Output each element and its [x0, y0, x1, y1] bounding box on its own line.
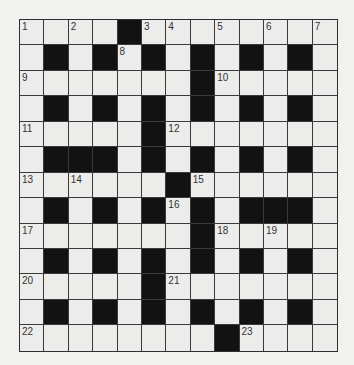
answer-cell[interactable] — [313, 300, 337, 325]
answer-cell[interactable] — [20, 96, 44, 121]
answer-cell[interactable] — [20, 300, 44, 325]
answer-cell[interactable] — [69, 198, 93, 223]
answer-cell[interactable] — [166, 71, 190, 96]
answer-cell[interactable] — [240, 71, 264, 96]
answer-cell[interactable] — [44, 173, 68, 198]
answer-cell[interactable] — [288, 224, 312, 249]
answer-cell[interactable] — [240, 224, 264, 249]
answer-cell[interactable] — [215, 147, 239, 172]
answer-cell[interactable] — [20, 198, 44, 223]
answer-cell[interactable]: 18 — [215, 224, 239, 249]
answer-cell[interactable] — [69, 274, 93, 299]
answer-cell[interactable]: 16 — [166, 198, 190, 223]
answer-cell[interactable] — [166, 300, 190, 325]
answer-cell[interactable] — [240, 20, 264, 45]
answer-cell[interactable]: 17 — [20, 224, 44, 249]
answer-cell[interactable] — [69, 249, 93, 274]
answer-cell[interactable] — [191, 122, 215, 147]
answer-cell[interactable]: 21 — [166, 274, 190, 299]
answer-cell[interactable] — [44, 20, 68, 45]
answer-cell[interactable] — [166, 249, 190, 274]
answer-cell[interactable] — [264, 173, 288, 198]
answer-cell[interactable] — [69, 325, 93, 350]
answer-cell[interactable] — [93, 325, 117, 350]
answer-cell[interactable] — [313, 198, 337, 223]
answer-cell[interactable] — [264, 300, 288, 325]
answer-cell[interactable] — [142, 325, 166, 350]
answer-cell[interactable] — [93, 71, 117, 96]
answer-cell[interactable]: 2 — [69, 20, 93, 45]
answer-cell[interactable] — [118, 71, 142, 96]
answer-cell[interactable] — [20, 147, 44, 172]
answer-cell[interactable] — [264, 122, 288, 147]
answer-cell[interactable]: 10 — [215, 71, 239, 96]
answer-cell[interactable] — [44, 224, 68, 249]
answer-cell[interactable]: 4 — [166, 20, 190, 45]
answer-cell[interactable] — [118, 147, 142, 172]
answer-cell[interactable] — [215, 122, 239, 147]
answer-cell[interactable] — [288, 71, 312, 96]
answer-cell[interactable] — [118, 300, 142, 325]
answer-cell[interactable] — [264, 45, 288, 70]
answer-cell[interactable] — [313, 71, 337, 96]
answer-cell[interactable]: 15 — [191, 173, 215, 198]
answer-cell[interactable] — [44, 274, 68, 299]
answer-cell[interactable] — [20, 45, 44, 70]
answer-cell[interactable] — [191, 20, 215, 45]
answer-cell[interactable] — [118, 249, 142, 274]
answer-cell[interactable] — [264, 325, 288, 350]
answer-cell[interactable] — [20, 249, 44, 274]
answer-cell[interactable]: 12 — [166, 122, 190, 147]
answer-cell[interactable] — [313, 325, 337, 350]
answer-cell[interactable]: 8 — [118, 45, 142, 70]
answer-cell[interactable] — [313, 249, 337, 274]
answer-cell[interactable] — [288, 122, 312, 147]
answer-cell[interactable] — [69, 224, 93, 249]
answer-cell[interactable] — [166, 325, 190, 350]
answer-cell[interactable]: 20 — [20, 274, 44, 299]
answer-cell[interactable] — [215, 173, 239, 198]
answer-cell[interactable] — [313, 147, 337, 172]
answer-cell[interactable] — [264, 71, 288, 96]
answer-cell[interactable] — [69, 122, 93, 147]
answer-cell[interactable] — [142, 224, 166, 249]
answer-cell[interactable]: 14 — [69, 173, 93, 198]
answer-cell[interactable] — [313, 274, 337, 299]
answer-cell[interactable] — [93, 173, 117, 198]
answer-cell[interactable] — [142, 71, 166, 96]
answer-cell[interactable] — [142, 173, 166, 198]
answer-cell[interactable] — [288, 20, 312, 45]
answer-cell[interactable] — [166, 45, 190, 70]
answer-cell[interactable] — [118, 122, 142, 147]
answer-cell[interactable] — [191, 274, 215, 299]
answer-cell[interactable] — [313, 45, 337, 70]
answer-cell[interactable] — [215, 300, 239, 325]
answer-cell[interactable] — [69, 71, 93, 96]
answer-cell[interactable]: 9 — [20, 71, 44, 96]
answer-cell[interactable]: 3 — [142, 20, 166, 45]
answer-cell[interactable] — [93, 224, 117, 249]
answer-cell[interactable] — [166, 147, 190, 172]
answer-cell[interactable] — [215, 96, 239, 121]
answer-cell[interactable] — [93, 122, 117, 147]
answer-cell[interactable] — [191, 325, 215, 350]
answer-cell[interactable] — [166, 224, 190, 249]
answer-cell[interactable] — [215, 249, 239, 274]
answer-cell[interactable] — [264, 249, 288, 274]
answer-cell[interactable]: 5 — [215, 20, 239, 45]
answer-cell[interactable] — [118, 173, 142, 198]
answer-cell[interactable] — [69, 300, 93, 325]
answer-cell[interactable] — [240, 122, 264, 147]
answer-cell[interactable] — [264, 147, 288, 172]
answer-cell[interactable] — [93, 20, 117, 45]
answer-cell[interactable] — [118, 198, 142, 223]
answer-cell[interactable] — [313, 224, 337, 249]
answer-cell[interactable] — [288, 325, 312, 350]
answer-cell[interactable]: 7 — [313, 20, 337, 45]
answer-cell[interactable] — [313, 96, 337, 121]
answer-cell[interactable]: 1 — [20, 20, 44, 45]
answer-cell[interactable] — [288, 274, 312, 299]
answer-cell[interactable] — [69, 45, 93, 70]
answer-cell[interactable] — [44, 71, 68, 96]
answer-cell[interactable] — [44, 122, 68, 147]
